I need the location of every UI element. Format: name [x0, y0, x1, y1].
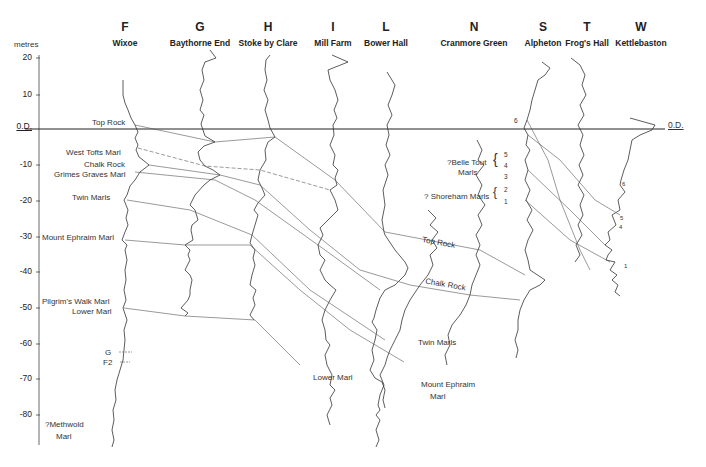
tick-10: 10 — [2, 89, 32, 99]
datum-label-right: 0.D. — [668, 120, 684, 130]
alpheton-marker-6: 6 — [514, 117, 518, 124]
borehole-name-cranmore: Cranmore Green — [440, 38, 507, 48]
kettlebaston-marker-6: 6 — [622, 181, 625, 187]
borehole-letter-s: S — [539, 20, 547, 34]
belle-number-4: 4 — [504, 162, 508, 169]
log-cranmore — [376, 210, 438, 447]
belle-number-3: 3 — [504, 173, 508, 180]
label-pilgrims-walk-marl: Pilgrim's Walk Marl — [42, 297, 109, 306]
tick-20: 20 — [2, 52, 32, 62]
borehole-name-frogshall: Frog's Hall — [565, 38, 609, 48]
kettlebaston-marker-1: 1 — [624, 263, 627, 269]
brace-belle-tout: { — [493, 152, 498, 166]
belle-number-5: 5 — [504, 151, 508, 158]
borehole-letter-f: F — [121, 20, 128, 34]
log-frogshall — [571, 58, 586, 262]
label-belle-tout: ?Belle Tout — [447, 158, 486, 167]
log-wixoe — [112, 80, 149, 447]
tick-minus30: -30 — [2, 231, 32, 241]
borehole-letter-t: T — [583, 20, 590, 34]
borehole-letter-l: L — [382, 20, 389, 34]
borehole-name-alpheton: Alpheton — [525, 38, 562, 48]
borehole-letter-i: I — [331, 20, 334, 34]
borehole-letter-g: G — [195, 20, 204, 34]
tick-minus20: -20 — [2, 195, 32, 205]
label-twin-marls: Twin Marls — [72, 193, 110, 202]
label-mount-ephraim-marl-right: Marl — [430, 392, 446, 401]
borehole-letter-w: W — [635, 20, 646, 34]
tick-minus60: -60 — [2, 338, 32, 348]
label-belle-tout-marls: Marls — [458, 168, 478, 177]
shoreham-number-1: 1 — [504, 198, 508, 205]
tick-minus80: -80 — [2, 409, 32, 419]
tick-minus50: -50 — [2, 302, 32, 312]
tick-minus70: -70 — [2, 373, 32, 383]
borehole-letter-n: N — [470, 20, 479, 34]
borehole-name-stoke: Stoke by Clare — [238, 38, 297, 48]
shoreham-number-2: 2 — [504, 186, 508, 193]
label-mount-ephraim-marl: Mount Ephraim Marl — [42, 233, 114, 242]
borehole-logs — [112, 50, 655, 447]
kettlebaston-marker-5: 5 — [620, 215, 623, 221]
axis-ticks — [36, 58, 40, 415]
borehole-name-bowerhall: Bower Hall — [364, 38, 408, 48]
label-chalk-rock: Chalk Rock — [84, 160, 125, 169]
label-twin-marls-right: Twin Marls — [418, 338, 456, 347]
borehole-name-wixoe: Wixoe — [113, 38, 138, 48]
label-shoreham-marls: ? Shoreham Marls — [424, 192, 489, 201]
label-g: G — [105, 348, 111, 357]
label-f2: F2 — [103, 358, 112, 367]
tick-minus40: -40 — [2, 266, 32, 276]
tick-od: 0.D. — [2, 121, 32, 131]
label-lower-marl: Lower Marl — [72, 307, 112, 316]
label-mount-ephraim-right: Mount Ephraim — [421, 380, 475, 389]
label-west-tofts-marl: West Tofts Marl — [66, 148, 121, 157]
borehole-letter-h: H — [264, 20, 273, 34]
tick-minus10: -10 — [2, 159, 32, 169]
log-kettlebaston — [605, 118, 655, 296]
borehole-name-baythorne: Baythorne End — [170, 38, 230, 48]
log-bowerhall — [370, 72, 408, 408]
label-methwold: ?Methwold — [45, 420, 84, 429]
label-grimes-graves-marl: Grimes Graves Marl — [54, 170, 126, 179]
axis-unit-label: metres — [14, 40, 38, 49]
brace-shoreham: { — [493, 186, 497, 198]
kettlebaston-marker-4: 4 — [619, 224, 622, 230]
log-baythorne — [181, 50, 220, 316]
label-lower-marl-right: Lower Marl — [313, 373, 353, 382]
borehole-name-millfarm: Mill Farm — [314, 38, 351, 48]
borehole-name-kettlebaston: Kettlebaston — [615, 38, 666, 48]
label-top-rock: Top Rock — [92, 118, 125, 127]
correlation-lines — [119, 120, 620, 365]
label-methwold-marl: Marl — [56, 432, 72, 441]
log-alpheton — [515, 62, 550, 358]
